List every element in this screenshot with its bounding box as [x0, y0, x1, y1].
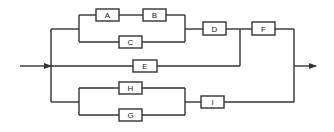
block-c-label: C: [128, 38, 134, 47]
block-d: D: [203, 22, 226, 35]
block-b-label: B: [152, 11, 157, 20]
block-d-label: D: [212, 25, 218, 34]
reliability-block-diagram: A B C D F E H G I: [0, 0, 334, 132]
block-i: I: [201, 96, 224, 108]
block-c: C: [119, 36, 142, 48]
block-f-label: F: [261, 25, 266, 34]
bottom-branch-wires: [51, 88, 294, 115]
block-e-label: E: [142, 62, 147, 71]
block-i-label: I: [211, 98, 213, 107]
block-a-label: A: [105, 11, 111, 20]
block-e: E: [133, 60, 157, 72]
block-g: G: [119, 109, 142, 121]
block-b: B: [143, 9, 166, 21]
block-h-label: H: [128, 84, 134, 93]
block-h: H: [119, 82, 142, 94]
block-a: A: [96, 9, 119, 21]
block-g-label: G: [127, 111, 133, 120]
block-f: F: [252, 22, 275, 35]
